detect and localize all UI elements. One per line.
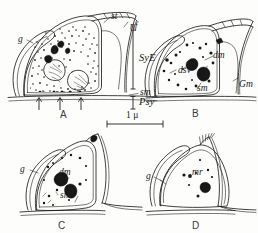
panel-letter-b: B [192,108,199,119]
label-a-st: st [111,12,118,22]
panel-c-drawing [20,134,142,216]
label-a-nf: nf [130,22,138,32]
label-b-sm: sm [197,84,208,94]
figure-panel-plate: .ln{fill:none;stroke:#1f1f1f;stroke-widt… [0,0,258,233]
label-d-g: g [146,172,151,182]
label-c-dm: dm [59,168,71,178]
label-b-gm: Gm [239,80,253,90]
label-b-dsv: dsv [178,66,191,76]
label-c-g: g [20,165,25,175]
panel-letter-d: D [192,220,200,231]
label-a-g: g [18,35,23,45]
scale-bar-line [107,121,163,128]
label-c-sm: sm [60,191,71,201]
label-a-sye: SyE [139,53,156,64]
panel-letter-c: C [58,220,66,231]
label-b-dm: dm [213,51,225,61]
panel-letter-a: A [60,109,67,120]
label-d-mr: mr [192,168,203,178]
scale-bar-label: 1 μ [126,110,138,120]
label-a-psy: Psy [139,97,154,108]
